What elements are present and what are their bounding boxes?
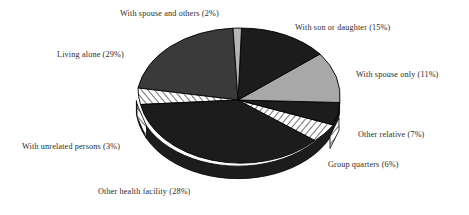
pie-label-other-relative: Other relative (7%) [358,130,425,140]
pie-chart-svg [0,0,469,215]
pie-slices-top [138,28,340,163]
pie-label-living-alone: Living alone (29%) [57,50,124,60]
pie-label-other-health-facility: Other health facility (28%) [98,187,191,197]
pie-label-with-spouse-only: With spouse only (11%) [356,70,438,80]
pie-label-with-spouse-and-others: With spouse and others (2%) [120,9,219,19]
pie-chart-figure: With spouse and others (2%) With son or … [0,0,469,215]
pie-slice-living-alone[interactable] [138,28,238,100]
pie-label-with-son-or-daughter: With son or daughter (15%) [295,23,390,33]
pie-label-with-unrelated-persons: With unrelated persons (3%) [22,142,120,152]
pie-label-group-quarters: Group quarters (6%) [328,160,399,170]
